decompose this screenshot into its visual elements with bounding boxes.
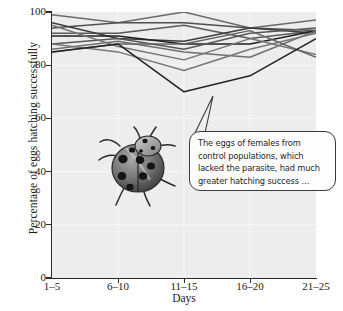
y-tick-mark-100 bbox=[46, 11, 52, 12]
x-tick-label-21-25: 21–25 bbox=[294, 281, 338, 292]
callout-line-1: The eggs of females from bbox=[198, 137, 328, 150]
y-axis-title: Percentage of eggs hatching successfully bbox=[27, 13, 39, 263]
x-tick-label-6-10: 6–10 bbox=[96, 281, 140, 292]
callout-line-2: control populations, which bbox=[198, 150, 328, 163]
y-tick-mark-20 bbox=[46, 224, 52, 225]
callout-pointer bbox=[186, 92, 226, 136]
x-axis-title: Days bbox=[52, 292, 316, 304]
callout-line-3: lacked the parasite, had much bbox=[198, 162, 328, 175]
y-tick-mark-0 bbox=[46, 277, 52, 278]
ladybug-beetle-icon bbox=[96, 126, 184, 208]
y-axis-line bbox=[51, 11, 52, 279]
x-tick-label-11-15: 11–15 bbox=[162, 281, 206, 292]
y-tick-mark-60 bbox=[46, 118, 52, 119]
y-tick-mark-80 bbox=[46, 65, 52, 66]
y-tick-mark-40 bbox=[46, 171, 52, 172]
callout-box: The eggs of females from control populat… bbox=[189, 131, 336, 191]
chart-figure: 100 80 60 40 20 0 1–5 6–10 11–15 16–20 2… bbox=[0, 0, 343, 311]
x-tick-label-16-20: 16–20 bbox=[228, 281, 272, 292]
callout-line-4: greater hatching success … bbox=[198, 175, 328, 188]
x-tick-label-1-5: 1–5 bbox=[30, 281, 74, 292]
